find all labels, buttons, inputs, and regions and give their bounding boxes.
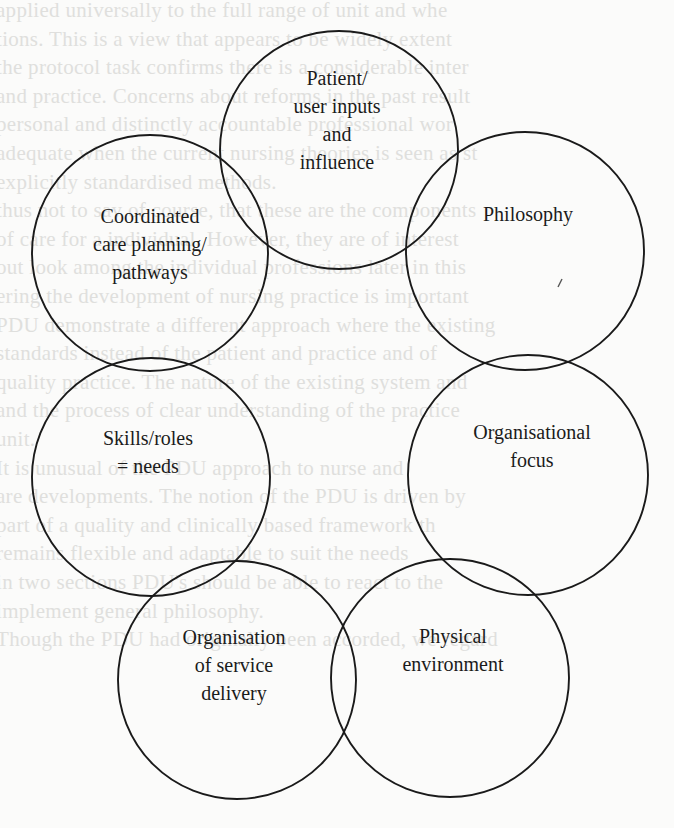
label-line: Physical bbox=[402, 622, 503, 650]
label-philosophy: Philosophy bbox=[483, 200, 573, 228]
label-line: of service bbox=[183, 651, 286, 679]
label-line: and bbox=[293, 120, 380, 148]
label-line: Organisational bbox=[473, 418, 590, 446]
label-skills: Skills/roles= needs bbox=[103, 424, 193, 480]
label-line: user inputs bbox=[293, 92, 380, 120]
label-line: Organisation bbox=[183, 623, 286, 651]
label-line: focus bbox=[473, 446, 590, 474]
circle-philosophy bbox=[406, 132, 644, 370]
label-service-delivery: Organisationof servicedelivery bbox=[183, 623, 286, 707]
label-line: Philosophy bbox=[483, 200, 573, 228]
label-line: Coordinated bbox=[93, 202, 207, 230]
stray-mark bbox=[558, 279, 562, 287]
label-coordinated: Coordinatedcare planning/pathways bbox=[93, 202, 207, 286]
label-line: delivery bbox=[183, 679, 286, 707]
label-line: influence bbox=[293, 148, 380, 176]
label-line: = needs bbox=[103, 452, 193, 480]
label-organisational-focus: Organisationalfocus bbox=[473, 418, 590, 474]
label-physical-environment: Physicalenvironment bbox=[402, 622, 503, 678]
label-line: pathways bbox=[93, 258, 207, 286]
label-line: Skills/roles bbox=[103, 424, 193, 452]
label-patient: Patient/user inputsandinfluence bbox=[293, 64, 380, 176]
label-line: care planning/ bbox=[93, 230, 207, 258]
label-line: environment bbox=[402, 650, 503, 678]
label-line: Patient/ bbox=[293, 64, 380, 92]
